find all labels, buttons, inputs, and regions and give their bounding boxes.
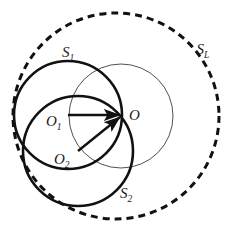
circles-diagram: SL S1 S2 O O1 O2 (0, 0, 232, 231)
label-point-O: O (129, 107, 140, 123)
label-outer-circle-SL-sub: L (203, 50, 209, 60)
label-circle-S1-sub: 1 (69, 53, 74, 63)
label-point-O1-sub: 1 (57, 122, 62, 132)
figure-container: SL S1 S2 O O1 O2 (0, 0, 232, 231)
label-point-O2-base: O (54, 151, 65, 167)
label-point-O-base: O (129, 107, 140, 123)
label-point-O1-base: O (46, 113, 57, 129)
label-point-O2-sub: 2 (65, 160, 70, 170)
label-circle-S2-sub: 2 (127, 194, 132, 204)
